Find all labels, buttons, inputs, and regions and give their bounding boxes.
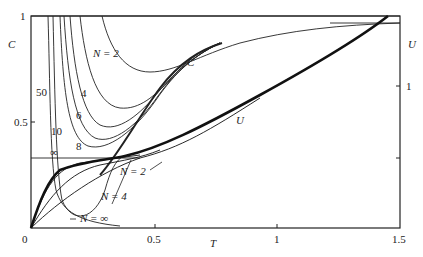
label-c-n2: N = 2 bbox=[92, 47, 119, 59]
x-tick-1: 1 bbox=[274, 233, 280, 245]
label-c-ninf: ∞ bbox=[50, 146, 58, 158]
y-axis-label-u: U bbox=[408, 38, 417, 50]
label-u-n2: N = 2 bbox=[119, 165, 146, 177]
axes-frame bbox=[31, 16, 400, 228]
plot-area: C U T 1 0.5 1 0 0.5 1 1.5 N = 2 4 6 8 10… bbox=[0, 0, 423, 257]
label-c: C bbox=[187, 56, 195, 68]
label-c-n6: 6 bbox=[76, 109, 82, 121]
label-u: U bbox=[236, 114, 245, 126]
label-c-n10: 10 bbox=[51, 125, 63, 137]
x-tick-1.5: 1.5 bbox=[392, 233, 406, 245]
chart: C U T 1 0.5 1 0 0.5 1 1.5 N = 2 4 6 8 10… bbox=[0, 0, 423, 257]
label-c-n4: 4 bbox=[81, 87, 87, 99]
x-tick-0.5: 0.5 bbox=[147, 233, 161, 245]
label-u-n4: N = 4 bbox=[100, 190, 127, 202]
label-c-n8: 8 bbox=[76, 140, 82, 152]
y-axis-label-c: C bbox=[8, 38, 16, 50]
u-tick-1: 1 bbox=[406, 80, 412, 92]
y-tick-1: 1 bbox=[20, 10, 26, 22]
y-tick-0.5: 0.5 bbox=[14, 116, 28, 128]
label-c-n50: 50 bbox=[36, 86, 48, 98]
x-axis-label: T bbox=[210, 237, 217, 249]
label-u-ninf: N = ∞ bbox=[79, 212, 108, 224]
x-tick-0: 0 bbox=[22, 233, 28, 245]
